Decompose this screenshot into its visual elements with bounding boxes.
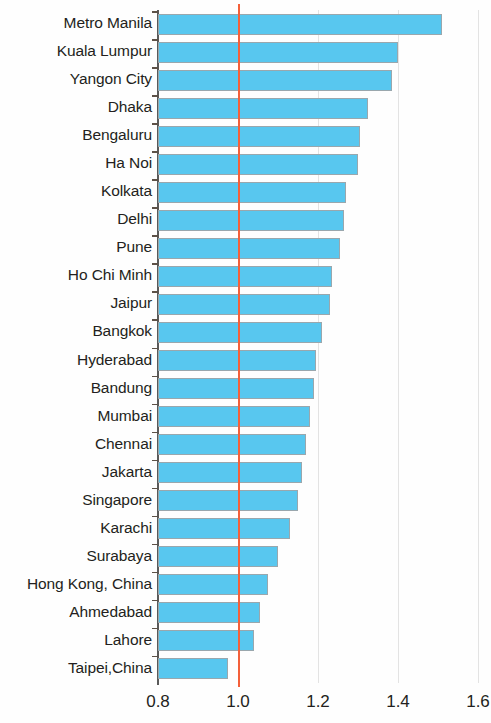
y-axis-tick [152,572,158,574]
x-tick-label: 1.0 [226,692,250,712]
y-axis-tick [152,432,158,434]
bar [158,350,316,371]
bar [158,238,340,259]
bar [158,406,310,427]
bar [158,126,360,147]
bar [158,574,268,595]
y-axis-tick [152,544,158,546]
bar [158,14,442,35]
y-axis-tick [152,151,158,153]
y-axis-tick [152,460,158,462]
bar [158,602,260,623]
reference-line-1.0 [238,4,240,687]
category-label: Hyderabad [2,351,152,369]
y-axis-tick [152,67,158,69]
category-label: Jaipur [2,294,152,312]
category-label: Chennai [2,435,152,453]
bar [158,266,332,287]
category-label: Yangon City [2,70,152,88]
category-label: Metro Manila [2,14,152,32]
bar [158,378,314,399]
x-tick-label: 1.6 [466,692,490,712]
category-label: Kolkata [2,182,152,200]
y-axis-tick [152,291,158,293]
y-axis-tick [152,39,158,41]
bar [158,322,322,343]
y-axis-tick [152,179,158,181]
bar [158,434,306,455]
category-label: Bandung [2,379,152,397]
category-label: Kuala Lumpur [2,42,152,60]
category-label: Hong Kong, China [2,575,152,593]
category-label: Lahore [2,631,152,649]
bar [158,210,344,231]
y-axis-tick [152,516,158,518]
bar [158,70,392,91]
y-axis-tick [152,628,158,630]
category-label: Taipei,China [2,659,152,677]
y-axis-tick [152,11,158,13]
bar [158,658,228,679]
bar [158,98,368,119]
category-label: Bangkok [2,322,152,340]
y-axis-tick [152,263,158,265]
x-tick-label: 1.4 [386,692,410,712]
y-axis-tick [152,376,158,378]
y-axis-tick [152,488,158,490]
category-label: Singapore [2,491,152,509]
x-tick-label: 1.2 [306,692,330,712]
category-label: Pune [2,238,152,256]
y-axis-tick [152,235,158,237]
x-tick-label: 0.8 [146,692,170,712]
bar [158,518,290,539]
category-label: Ho Chi Minh [2,266,152,284]
y-axis-tick [152,600,158,602]
y-axis-tick [152,123,158,125]
horizontal-bar-chart: Metro ManilaKuala LumpurYangon CityDhaka… [0,0,491,723]
y-axis-tick [152,95,158,97]
y-axis-tick [152,404,158,406]
category-label: Delhi [2,210,152,228]
category-labels: Metro ManilaKuala LumpurYangon CityDhaka… [0,0,152,723]
category-label: Karachi [2,519,152,537]
bar [158,42,398,63]
category-label: Mumbai [2,407,152,425]
category-label: Ahmedabad [2,603,152,621]
bar [158,490,298,511]
category-label: Bengaluru [2,126,152,144]
bar [158,182,346,203]
y-axis-tick [152,207,158,209]
bar [158,462,302,483]
category-label: Ha Noi [2,154,152,172]
category-label: Surabaya [2,547,152,565]
y-axis-tick [152,656,158,658]
category-label: Dhaka [2,98,152,116]
y-axis-tick [152,319,158,321]
y-axis-tick [152,348,158,350]
bar [158,154,358,175]
bar [158,294,330,315]
bar [158,546,278,567]
category-label: Jakarta [2,463,152,481]
